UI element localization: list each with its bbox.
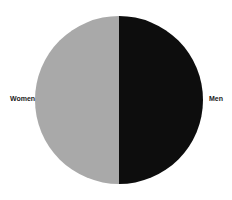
pie-slice-men[interactable]	[119, 16, 203, 184]
pie-slice-women[interactable]	[35, 16, 119, 184]
pie-label-men: Men	[209, 95, 223, 103]
pie-chart-figure: Women Men	[0, 0, 232, 200]
pie-label-women: Women	[10, 95, 35, 103]
